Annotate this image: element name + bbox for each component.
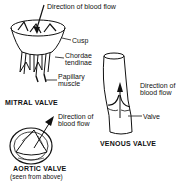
valve-label: Valve: [143, 113, 160, 120]
aortic-flow-arrow: [34, 116, 54, 148]
chordae-label-line2: tendinae: [65, 59, 92, 66]
papillary-label-line1: Papillary: [58, 73, 85, 80]
papillary-label-line2: muscle: [58, 80, 80, 87]
venous-flow-label-line1: Direction of: [140, 82, 175, 89]
mitral-flow-label: Direction of blood flow: [47, 3, 116, 10]
aortic-valve-title: AORTIC VALVE: [13, 165, 66, 173]
venous-flow-label-line2: blood flow: [140, 89, 172, 96]
chordae-label-line1: Chordae: [65, 52, 92, 59]
mitral-flow-arrow: [33, 5, 44, 34]
aortic-valve-subtitle: (seen from above): [10, 173, 63, 180]
aortic-flow-label-line2: blood flow: [58, 120, 90, 127]
venous-valve-illustration: [103, 53, 132, 134]
venous-valve-title: VENOUS VALVE: [100, 140, 156, 148]
aortic-valve-illustration: [10, 128, 52, 164]
mitral-valve-title: MITRAL VALVE: [5, 99, 58, 107]
venous-flow-arrow: [117, 82, 123, 118]
aortic-flow-label-line1: Direction of: [58, 113, 93, 120]
cusp-label: Cusp: [72, 37, 88, 44]
